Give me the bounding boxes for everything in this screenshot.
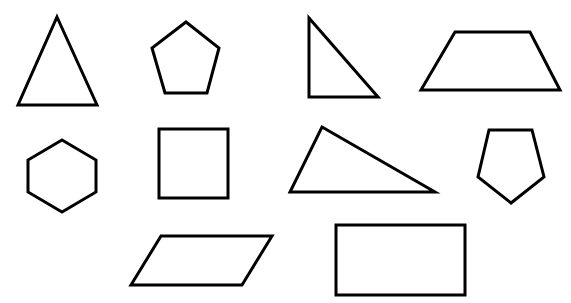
shapes-worksheet <box>0 0 571 303</box>
shape-hexagon <box>28 140 96 212</box>
shape-triangle-scalene <box>290 127 435 192</box>
shape-triangle-isosceles <box>18 17 97 105</box>
shape-pentagon-upright <box>152 22 219 93</box>
shape-pentagon-inverted <box>478 130 544 203</box>
shape-square <box>159 129 228 198</box>
shape-rectangle <box>336 225 465 295</box>
shapes-canvas <box>0 0 571 303</box>
shape-trapezoid <box>421 32 560 90</box>
shape-parallelogram <box>131 236 272 285</box>
shape-triangle-right <box>309 18 378 97</box>
